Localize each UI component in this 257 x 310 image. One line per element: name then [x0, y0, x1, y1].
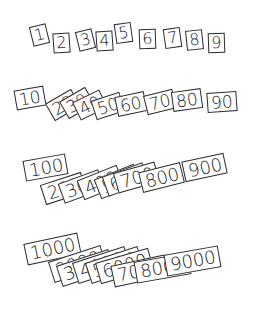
number-card: 8 [185, 29, 204, 51]
card-label: 5 [117, 24, 129, 41]
card-label: 1 [33, 26, 47, 44]
number-cards-diagram: 123456789 102030405060708090 10020030040… [0, 0, 257, 310]
card-label: 6 [142, 31, 153, 47]
number-card: 7 [163, 27, 183, 49]
number-card: 80 [171, 88, 203, 112]
card-label: 3 [79, 31, 93, 49]
card-label: 9 [211, 35, 222, 51]
card-label: 80 [175, 90, 199, 110]
card-label: 100 [28, 156, 65, 180]
number-card: 5 [114, 22, 134, 44]
card-label: 10 [18, 88, 42, 108]
number-card: 3 [75, 28, 96, 52]
number-card: 9 [208, 33, 226, 54]
number-card: 1 [29, 23, 50, 47]
card-label: 9000 [169, 248, 217, 274]
number-card: 900 [181, 153, 227, 182]
card-label: 90 [210, 93, 233, 111]
card-label: 2 [56, 35, 67, 52]
number-card: 90 [206, 91, 237, 113]
number-card: 6 [139, 29, 157, 50]
number-card: 9000 [164, 245, 222, 276]
card-label: 8 [189, 32, 201, 49]
card-label: 4 [99, 33, 110, 50]
card-label: 60 [118, 93, 143, 114]
number-card: 10 [13, 86, 46, 111]
number-card: 2 [52, 32, 70, 53]
card-label: 7 [166, 29, 178, 46]
number-card: 4 [95, 30, 113, 51]
card-label: 70 [147, 91, 172, 113]
card-label: 900 [186, 155, 223, 180]
